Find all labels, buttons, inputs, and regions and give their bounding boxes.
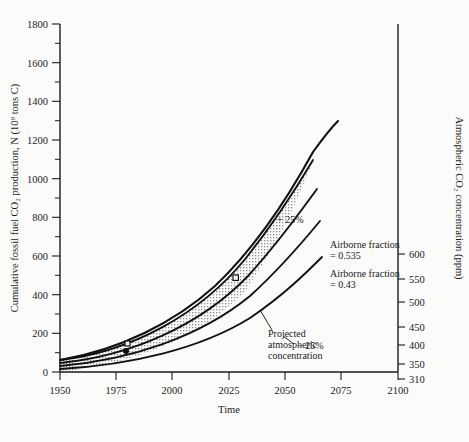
x-axis-title: Time xyxy=(218,404,240,415)
ytick-600: 600 xyxy=(32,251,48,262)
ytick-1000: 1000 xyxy=(27,174,48,185)
y-axis-title: Cumulative fossil fuel CO₂ production, N… xyxy=(9,83,21,312)
y2tick-500: 500 xyxy=(409,297,425,308)
svg-text:= 0.535: = 0.535 xyxy=(330,250,361,261)
xtick-1950: 1950 xyxy=(50,385,71,396)
ytick-400: 400 xyxy=(32,290,48,301)
xtick-2100: 2100 xyxy=(388,385,409,396)
ytick-1600: 1600 xyxy=(27,58,48,69)
y2tick-600: 600 xyxy=(409,249,425,260)
marker-projected-2025 xyxy=(233,275,238,280)
ytick-200: 200 xyxy=(32,328,48,339)
xtick-2000: 2000 xyxy=(162,385,183,396)
xtick-2075: 2075 xyxy=(331,385,352,396)
marker-observed-1975 xyxy=(123,348,128,353)
ytick-0: 0 xyxy=(43,367,48,378)
svg-text:concentration: concentration xyxy=(268,350,322,361)
plus-25-label: + 25% xyxy=(277,214,303,225)
ytick-800: 800 xyxy=(32,212,48,223)
y2tick-550: 550 xyxy=(409,274,425,285)
y2tick-310: 310 xyxy=(409,374,425,385)
marker-observed-open xyxy=(125,341,130,346)
ytick-1400: 1400 xyxy=(27,96,48,107)
svg-text:atmospheric: atmospheric xyxy=(268,339,317,350)
svg-text:= 0.43: = 0.43 xyxy=(330,279,356,290)
xtick-2025: 2025 xyxy=(219,385,240,396)
co2-projection-chart: 1800 1600 1400 1200 1000 800 600 400 200… xyxy=(0,0,469,442)
svg-text:Airborne fraction: Airborne fraction xyxy=(330,239,400,250)
y2tick-400: 400 xyxy=(409,340,425,351)
ytick-1200: 1200 xyxy=(27,135,48,146)
y2-axis-title: Atmospheric CO₂ concentration (ppm) xyxy=(453,116,465,280)
y2tick-350: 350 xyxy=(409,359,425,370)
xtick-2050: 2050 xyxy=(275,385,296,396)
ytick-1800: 1800 xyxy=(27,19,48,30)
svg-text:Airborne fraction: Airborne fraction xyxy=(330,268,400,279)
xtick-1975: 1975 xyxy=(106,385,127,396)
svg-text:Projected: Projected xyxy=(268,328,306,339)
y2tick-450: 450 xyxy=(409,322,425,333)
